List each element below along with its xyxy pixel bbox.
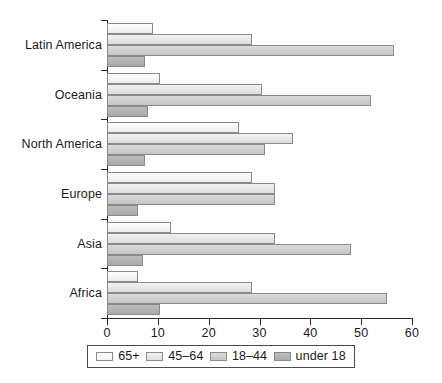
bar [107,56,145,67]
legend-label: 45–64 [168,350,203,363]
legend-item[interactable]: 65+ [96,350,140,363]
chart-legend: 65+45–6418–44under 18 [87,345,355,368]
bar [107,34,252,45]
x-axis-tick-label: 0 [87,326,127,340]
x-axis-tick [310,319,311,325]
bar [107,271,138,282]
legend-item[interactable]: 18–44 [210,350,267,363]
bar [107,233,275,244]
bar [107,155,145,166]
x-axis-tick-label: 40 [290,326,330,340]
bar [107,106,148,117]
category-label: Latin America [4,38,102,52]
legend-swatch-icon [274,352,291,361]
x-axis-tick-label: 50 [341,326,381,340]
legend-swatch-icon [146,352,163,361]
x-axis-tick-label: 20 [189,326,229,340]
bar [107,304,160,315]
legend-item[interactable]: under 18 [274,350,346,363]
legend-label: 18–44 [232,350,267,363]
bar [107,45,394,56]
grouped-bar-chart: Latin AmericaOceaniaNorth AmericaEuropeA… [0,0,442,383]
bar [107,222,171,233]
category-label: Oceania [4,88,102,102]
legend-label: 65+ [118,350,140,363]
y-axis-tick [101,318,107,319]
bar [107,255,143,266]
category-label: Asia [4,237,102,251]
y-axis-tick [101,268,107,269]
bar [107,73,160,84]
bar [107,183,275,194]
bar [107,282,252,293]
x-axis-tick [158,319,159,325]
bar [107,244,351,255]
category-label: Africa [4,286,102,300]
legend-item[interactable]: 45–64 [146,350,203,363]
y-axis-tick [101,70,107,71]
y-axis-tick [101,20,107,21]
bar [107,84,262,95]
x-axis-tick-label: 30 [240,326,280,340]
category-axis-labels: Latin AmericaOceaniaNorth AmericaEuropeA… [0,0,102,318]
bar [107,23,153,34]
bar [107,122,239,133]
bar [107,172,252,183]
legend-swatch-icon [96,352,113,361]
x-axis-tick-label: 10 [138,326,178,340]
legend-swatch-icon [210,352,227,361]
y-axis-tick [101,169,107,170]
legend-label: under 18 [296,350,346,363]
x-axis-tick [107,319,108,325]
plot-area [107,20,412,318]
y-axis-tick [101,119,107,120]
bar [107,293,387,304]
bar [107,194,275,205]
x-axis-tick [209,319,210,325]
y-axis-tick [101,219,107,220]
bar [107,95,371,106]
bar [107,144,265,155]
category-label: North America [4,137,102,151]
x-axis-tick [361,319,362,325]
x-axis-tick [412,319,413,325]
bar [107,205,138,216]
x-axis-tick [260,319,261,325]
x-axis-tick-label: 60 [392,326,432,340]
category-label: Europe [4,187,102,201]
bar [107,133,293,144]
